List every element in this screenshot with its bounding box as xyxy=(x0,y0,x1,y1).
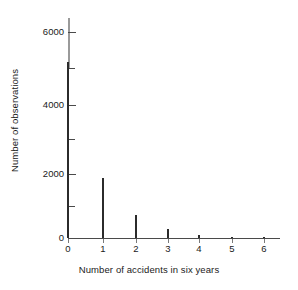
y-tick-0 xyxy=(68,238,76,239)
bar-1 xyxy=(102,178,104,238)
y-tick-label-4000: 4000 xyxy=(24,99,64,110)
bar-2 xyxy=(135,215,137,238)
y-tick-2000 xyxy=(68,174,76,175)
x-tick-label-1: 1 xyxy=(93,243,113,254)
y-tick-6000 xyxy=(68,32,76,33)
bar-4 xyxy=(198,235,200,238)
x-tick-label-0: 0 xyxy=(58,243,78,254)
y-tick-4000 xyxy=(68,105,76,106)
y-tick-label-0: 0 xyxy=(24,232,64,243)
chart-figure: Number of observations 6000 4000 2000 0 … xyxy=(0,0,298,290)
x-tick-label-3: 3 xyxy=(158,243,178,254)
x-tick-label-4: 4 xyxy=(189,243,209,254)
x-tick-label-6: 6 xyxy=(254,243,274,254)
x-axis-title: Number of accidents in six years xyxy=(0,264,298,275)
bar-0 xyxy=(67,62,69,238)
x-tick-label-2: 2 xyxy=(126,243,146,254)
x-axis-spine xyxy=(68,238,280,239)
y-tick-label-6000: 6000 xyxy=(24,26,64,37)
y-tick-label-2000: 2000 xyxy=(24,168,64,179)
bar-5 xyxy=(231,237,233,239)
x-tick-label-5: 5 xyxy=(222,243,242,254)
bar-6 xyxy=(263,237,265,238)
plot-area: 6000 4000 2000 0 0 1 2 3 4 5 6 xyxy=(0,0,298,290)
bar-3 xyxy=(167,229,169,238)
